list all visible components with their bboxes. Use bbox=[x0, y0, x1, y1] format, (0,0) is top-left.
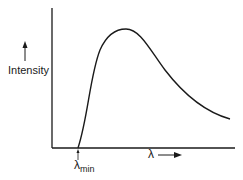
intensity-curve bbox=[78, 29, 230, 148]
intensity-diagram: Intensity λmin λ bbox=[0, 0, 243, 180]
diagram-canvas bbox=[0, 0, 243, 180]
y-axis-label: Intensity bbox=[8, 64, 49, 76]
x-arrow-icon bbox=[158, 152, 182, 158]
lambda-min-subscript: min bbox=[80, 164, 95, 174]
lambda-min-label: λmin bbox=[74, 158, 95, 174]
y-arrow-icon bbox=[23, 41, 28, 61]
x-axis-label: λ bbox=[148, 147, 154, 161]
